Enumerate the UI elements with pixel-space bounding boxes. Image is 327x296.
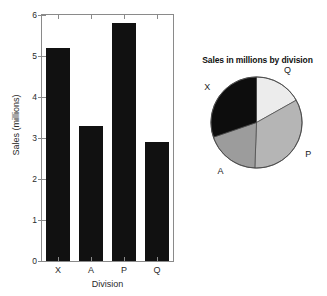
x-axis-tick-top [124,15,125,19]
pie-slice-label: Q [284,65,291,75]
x-axis-tick-top [157,15,158,19]
x-axis-tick-label: Q [153,266,160,275]
x-axis-tick-label: X [55,266,61,275]
bar-chart: Sales (millions) 0123456XAPQ Division [0,0,190,296]
y-axis-tick-inner [42,261,46,262]
bar [145,142,169,261]
figure-canvas: Sales (millions) 0123456XAPQ Division Sa… [0,0,327,296]
pie-chart-title: Sales in millions by division [188,55,327,65]
y-axis-tick-label: 0 [32,257,37,266]
pie-chart: Sales in millions by division QPAX [188,28,327,228]
y-axis-tick-label: 5 [32,52,37,61]
y-axis-tick-label: 6 [32,11,37,20]
y-axis-tick-inner [42,15,46,16]
x-axis-tick-bottom [91,257,92,261]
x-axis-tick-top [58,15,59,19]
x-axis-tick-bottom [157,257,158,261]
x-axis-tick-label: A [88,266,94,275]
bar-chart-plot-area: 0123456XAPQ [41,14,174,262]
pie-slice-label: X [204,82,210,92]
pie-chart-plot-area [210,76,303,169]
y-axis-tick-label: 3 [32,134,37,143]
y-axis-tick-label: 4 [32,93,37,102]
pie-slice-label: A [217,166,223,176]
x-axis-tick-bottom [124,257,125,261]
bar [46,48,70,261]
x-axis-tick-top [91,15,92,19]
bar-chart-y-axis-title: Sales (millions) [11,65,21,185]
y-axis-tick-label: 1 [32,216,37,225]
pie-slice-label: P [305,149,311,159]
y-axis-tick-label: 2 [32,175,37,184]
x-axis-tick-bottom [58,257,59,261]
bar [79,126,103,261]
bar [112,23,136,261]
pie-slices-svg [210,76,303,169]
x-axis-tick-label: P [121,266,127,275]
bar-chart-x-axis-title: Division [41,279,174,289]
